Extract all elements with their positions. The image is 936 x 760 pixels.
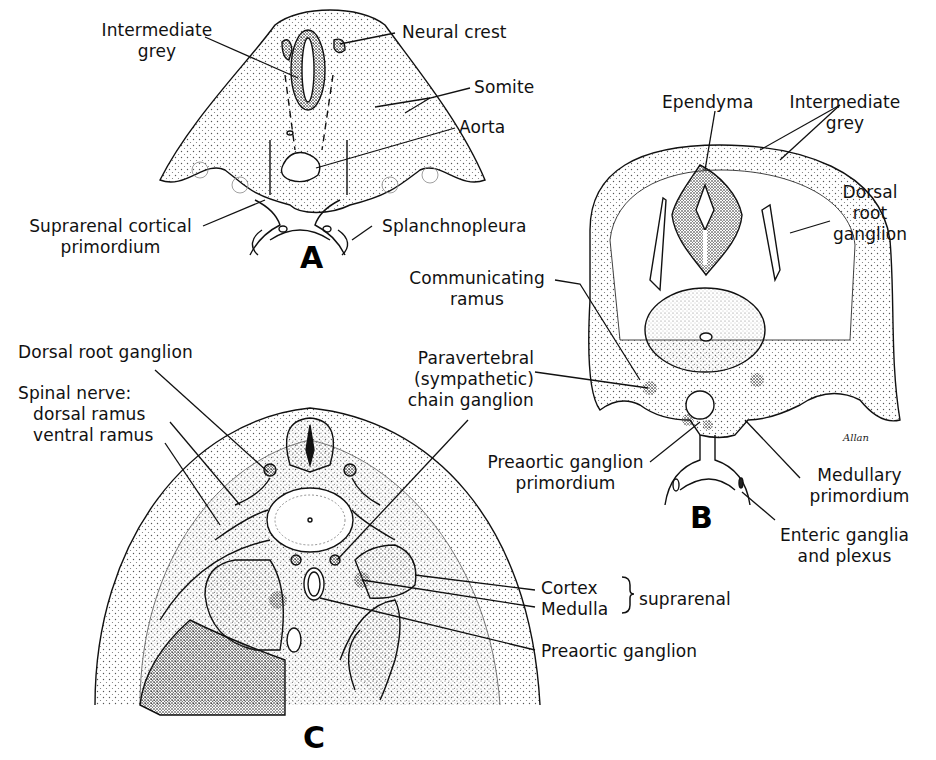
label-text: Preaortic ganglion (478, 452, 653, 473)
label-c-preaortic-ganglion: Preaortic ganglion (541, 641, 697, 662)
label-c-cortex: Cortex (541, 578, 598, 599)
label-b-dorsal-root-ganglion: Dorsal root ganglion (830, 182, 910, 245)
label-text: primordium (478, 473, 653, 494)
panel-label-c: C (303, 720, 325, 755)
label-b-medullary-primordium: Medullary primordium (802, 465, 917, 507)
label-text: Spinal nerve: (18, 383, 153, 404)
label-b-ependyma: Ependyma (662, 92, 753, 113)
label-a-intermediate-grey: Intermediate grey (92, 20, 222, 62)
label-ventral-ramus: ventral ramus (18, 425, 153, 446)
label-b-paravertebral-chain-ganglion: Paravertebral (sympathetic) chain gangli… (362, 348, 534, 411)
label-text: grey (780, 113, 910, 134)
label-a-aorta: Aorta (459, 117, 505, 138)
label-text: grey (92, 41, 222, 62)
label-text: Intermediate (780, 92, 910, 113)
label-c-suprarenal: suprarenal (639, 589, 731, 610)
panel-c-drawing (95, 408, 540, 715)
label-a-splanchnopleura: Splanchnopleura (382, 216, 526, 237)
label-text: Dorsal (830, 182, 910, 203)
artist-signature: Allan (843, 432, 869, 443)
suprarenal-brace (622, 577, 634, 613)
label-c-medulla: Medulla (541, 599, 608, 620)
label-text: primordium (18, 237, 203, 258)
label-text: Medullary (802, 465, 917, 486)
label-a-somite: Somite (474, 77, 534, 98)
label-text: root (830, 203, 910, 224)
panel-label-a: A (300, 240, 323, 275)
panel-label-b: B (690, 500, 713, 535)
label-text: Communicating (402, 268, 552, 289)
label-a-neural-crest: Neural crest (402, 22, 507, 43)
label-text: Suprarenal cortical (18, 216, 203, 237)
label-dorsal-ramus: dorsal ramus (18, 404, 153, 425)
embryology-figure: Intermediate grey Neural crest Somite Ao… (0, 0, 936, 760)
label-text: chain ganglion (362, 390, 534, 411)
label-b-intermediate-grey: Intermediate grey (780, 92, 910, 134)
label-b-preaortic-ganglion-primordium: Preaortic ganglion primordium (478, 452, 653, 494)
label-text: Intermediate (92, 20, 222, 41)
label-text: ganglion (830, 224, 910, 245)
label-c-spinal-nerve: Spinal nerve: dorsal ramus ventral ramus (18, 383, 153, 446)
label-b-communicating-ramus: Communicating ramus (402, 268, 552, 310)
label-b-enteric-ganglia-and-plexus: Enteric ganglia and plexus (772, 525, 917, 567)
label-text: and plexus (772, 546, 917, 567)
label-text: (sympathetic) (362, 369, 534, 390)
label-text: Enteric ganglia (772, 525, 917, 546)
label-text: primordium (802, 486, 917, 507)
label-text: ramus (402, 289, 552, 310)
label-c-dorsal-root-ganglion: Dorsal root ganglion (18, 342, 193, 363)
label-a-suprarenal-cortical-primordium: Suprarenal cortical primordium (18, 216, 203, 258)
label-text: Paravertebral (362, 348, 534, 369)
